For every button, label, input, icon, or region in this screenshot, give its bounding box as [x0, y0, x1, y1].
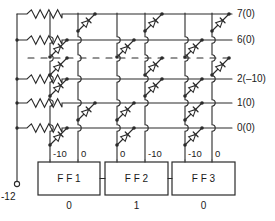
rail-junction-dot — [15, 77, 18, 80]
diode-r103-c185-bus-dot — [200, 101, 204, 105]
ff-3-label: F F 3 — [192, 173, 216, 184]
diode-r14-c212-bus-dot — [227, 12, 231, 16]
diode-r58-c145-column-dot — [143, 73, 147, 77]
column-line-col-3 — [117, 13, 120, 160]
ff-1-label: F F 1 — [57, 173, 81, 184]
column-line-col-5 — [185, 13, 188, 160]
output-label-line-1: 1(0) — [237, 97, 255, 108]
diode-r79-c185-bus-dot — [200, 77, 204, 81]
diode-r128-c117-column-dot — [115, 143, 119, 147]
diode-r128-c185-column-dot — [183, 143, 187, 147]
diode-r40-c117-bus-dot — [132, 38, 136, 42]
diode-r40-c50-bus-dot — [65, 38, 69, 42]
diode-r128-c185-bus-dot — [200, 126, 204, 130]
diode-r14-c78-bus-dot — [93, 12, 97, 16]
diode-r79-c50-bus-dot — [65, 77, 69, 81]
diode-r79-c50-column-dot — [48, 94, 52, 98]
diode-r40-c117-column-dot — [115, 55, 119, 59]
diode-r103-c78-bus-dot — [93, 101, 97, 105]
output-label-line-0: 0(0) — [237, 122, 255, 133]
terminal-circle-icon — [14, 181, 19, 186]
column-value-col-6: 0 — [215, 148, 220, 159]
diode-r79-c145-bus-dot — [160, 77, 164, 81]
column-line-col-1 — [50, 13, 53, 160]
column-value-col-4: -10 — [148, 148, 162, 159]
diode-r58-c50-bus-dot — [65, 56, 69, 60]
diode-r14-c145-bus-dot — [160, 12, 164, 16]
column-value-col-5: -10 — [188, 148, 202, 159]
column-line-col-4 — [145, 13, 148, 160]
diode-r128-c117-bus-dot — [132, 126, 136, 130]
diode-r128-c50-column-dot — [48, 143, 52, 147]
column-line-col-6 — [212, 13, 215, 160]
diode-r58-c212-bus-dot — [227, 56, 231, 60]
resistor-line-7 — [17, 10, 232, 18]
ff-3-state: 0 — [201, 200, 207, 211]
diode-r58-c145-bus-dot — [160, 56, 164, 60]
diode-r14-c212-column-dot — [210, 29, 214, 33]
diode-r58-c212-column-dot — [210, 73, 214, 77]
diode-r103-c117-bus-dot — [132, 101, 136, 105]
ff-2-label: F F 2 — [125, 173, 149, 184]
output-label-line-7: 7(0) — [237, 8, 255, 19]
column-value-col-3: 0 — [120, 148, 125, 159]
diode-r40-c185-column-dot — [183, 55, 187, 59]
diode-r40-c50-column-dot — [48, 55, 52, 59]
diode-r103-c78-column-dot — [76, 118, 80, 122]
rail-junction-dot — [15, 126, 18, 129]
rail-junction-dot — [15, 38, 18, 41]
diode-r128-c50-bus-dot — [65, 126, 69, 130]
supply-voltage-label: -12 — [1, 191, 16, 202]
diode-r103-c185-column-dot — [183, 118, 187, 122]
output-label-line-2: 2(–10) — [237, 73, 266, 84]
diode-r79-c185-column-dot — [183, 94, 187, 98]
diode-matrix-decoder-diagram: -127(0)6(0)2(–10)1(0)0(0)-1000-10-100F F… — [0, 0, 275, 221]
diode-r79-c145-column-dot — [143, 94, 147, 98]
rail-junction-dot — [15, 101, 18, 104]
output-label-line-6: 6(0) — [237, 34, 255, 45]
diode-r58-c50-column-dot — [48, 73, 52, 77]
diode-r14-c145-column-dot — [143, 29, 147, 33]
column-line-col-2 — [78, 13, 81, 160]
diode-r103-c117-column-dot — [115, 118, 119, 122]
ff-2-state: 1 — [134, 200, 140, 211]
diode-r40-c185-bus-dot — [200, 38, 204, 42]
ff-1-state: 0 — [66, 200, 72, 211]
column-value-col-1: -10 — [53, 148, 67, 159]
column-value-col-2: 0 — [81, 148, 86, 159]
diode-r14-c78-column-dot — [76, 29, 80, 33]
